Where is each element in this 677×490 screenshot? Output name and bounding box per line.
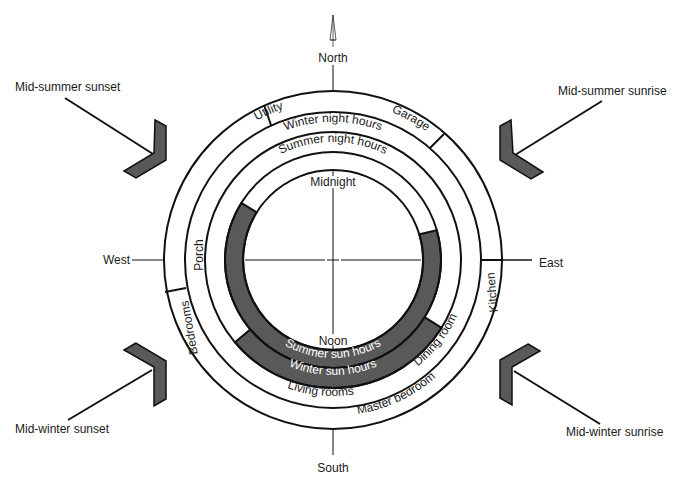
mid-winter-sunrise-label: Mid-winter sunrise [566,425,664,439]
center-crosshair [245,170,421,350]
mid-summer-sunrise-pointer [500,101,602,179]
south-label: South [317,461,348,475]
mid-summer-sunset-label: Mid-summer sunset [15,80,121,94]
mid-summer-sunset-pointer [65,98,166,178]
north-label: North [318,51,347,65]
east-label: East [539,256,564,270]
mid-winter-sunrise-pointer [500,344,600,424]
diagram-canvas: Winter night hours Summer night hours Ut… [0,0,677,490]
mid-summer-sunrise-label: Mid-summer sunrise [558,84,667,98]
porch-bedrooms-divider [165,288,186,292]
winter-night-hours-label: Winter night hours [282,111,384,133]
north-arrow-icon [330,15,336,47]
chevron-arrow-icon [500,120,543,179]
garage-divider [430,134,444,148]
garage-label: Garage [390,102,433,134]
sun-path-house-diagram: Winter night hours Summer night hours Ut… [0,0,677,490]
noon-label: Noon [319,334,348,348]
porch-label: Porch [192,239,206,270]
west-label: West [103,253,131,267]
bedrooms-label: Bedrooms [177,300,200,356]
mid-winter-sunset-label: Mid-winter sunset [15,422,110,436]
mid-winter-sunset-pointer [68,343,166,420]
midnight-label: Midnight [310,175,356,189]
kitchen-label: Kitchen [483,272,500,313]
